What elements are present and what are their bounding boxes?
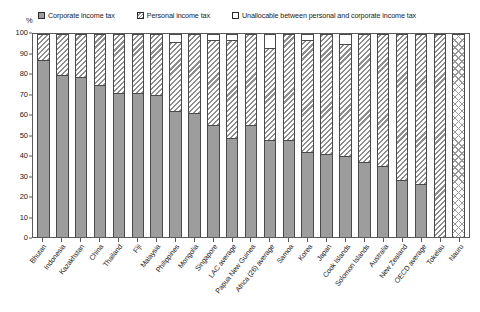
stacked-bar[interactable] xyxy=(94,34,106,237)
x-axis-label-slot: Korea xyxy=(298,242,317,312)
bars-container xyxy=(33,34,469,237)
bar-slot[interactable] xyxy=(110,34,129,237)
y-axis-tick-label: 10 xyxy=(20,214,28,222)
stacked-bar[interactable] xyxy=(264,34,276,237)
stacked-bar[interactable] xyxy=(113,34,125,237)
bar-segment-personal xyxy=(359,34,369,162)
stacked-bar[interactable] xyxy=(150,34,162,237)
bar-segment-personal xyxy=(189,34,199,113)
bar-slot[interactable] xyxy=(34,34,53,237)
legend-item-personal-income-tax: Personal income tax xyxy=(137,12,210,19)
bar-slot[interactable] xyxy=(336,34,355,237)
bar-segment-corporate xyxy=(189,113,199,237)
x-axis-label-slot: Philippines xyxy=(166,242,185,312)
bar-segment-personal xyxy=(321,34,331,154)
stacked-bar[interactable] xyxy=(339,34,351,237)
y-axis-tick-label: 0 xyxy=(24,234,28,242)
bar-segment-personal xyxy=(435,34,445,237)
bar-segment-corporate xyxy=(246,125,256,237)
stacked-bar[interactable] xyxy=(132,34,144,237)
bar-segment-personal xyxy=(133,34,143,93)
x-axis-category-label: Fiji xyxy=(132,243,143,254)
stacked-bar[interactable] xyxy=(245,34,257,237)
x-axis-label-slot: Thailand xyxy=(109,242,128,312)
y-axis-tick-label: 20 xyxy=(20,193,28,201)
stacked-bar[interactable] xyxy=(75,34,87,237)
unallocable-swatch-icon xyxy=(232,12,239,19)
bar-segment-unallocable xyxy=(340,34,350,44)
bar-segment-corporate xyxy=(340,156,350,237)
stacked-bar[interactable] xyxy=(452,34,464,237)
bar-segment-corporate xyxy=(151,95,161,237)
bar-segment-personal xyxy=(208,40,218,125)
bar-segment-corporate xyxy=(114,93,124,237)
stacked-bar[interactable] xyxy=(396,34,408,237)
bar-segment-personal xyxy=(416,34,426,184)
x-axis-label-slot: Malaysia xyxy=(147,242,166,312)
bar-segment-corporate xyxy=(359,162,369,237)
y-axis-tick-label: 100 xyxy=(15,29,28,37)
bar-segment-personal xyxy=(378,34,388,166)
x-axis-label-slot: Bhutan xyxy=(33,242,52,312)
legend-item-unallocable: Unallocable between personal and corpora… xyxy=(232,12,416,19)
stacked-bar-chart: Corporate income tax Personal income tax… xyxy=(0,0,480,312)
stacked-bar[interactable] xyxy=(56,34,68,237)
stacked-bar[interactable] xyxy=(301,34,313,237)
bar-slot[interactable] xyxy=(204,34,223,237)
x-axis-label-slot: Samoa xyxy=(279,242,298,312)
bar-slot[interactable] xyxy=(430,34,449,237)
bar-segment-personal xyxy=(170,42,180,111)
bar-slot[interactable] xyxy=(166,34,185,237)
stacked-bar[interactable] xyxy=(207,34,219,237)
stacked-bar[interactable] xyxy=(37,34,49,237)
bar-slot[interactable] xyxy=(393,34,412,237)
stacked-bar[interactable] xyxy=(358,34,370,237)
bar-slot[interactable] xyxy=(147,34,166,237)
legend-item-corporate-income-tax: Corporate income tax xyxy=(38,12,115,19)
bar-slot[interactable] xyxy=(412,34,431,237)
bar-segment-personal xyxy=(57,34,67,75)
bar-slot[interactable] xyxy=(317,34,336,237)
bar-segment-corporate xyxy=(208,125,218,237)
bar-segment-personal xyxy=(114,34,124,93)
stacked-bar[interactable] xyxy=(320,34,332,237)
bar-segment-corporate xyxy=(95,85,105,237)
bar-slot[interactable] xyxy=(374,34,393,237)
stacked-bar[interactable] xyxy=(434,34,446,237)
stacked-bar[interactable] xyxy=(377,34,389,237)
y-axis-tick-label: 50 xyxy=(20,132,28,140)
y-axis-unit-label: % xyxy=(26,17,33,25)
x-axis-label-slot: Kazakhstan xyxy=(71,242,90,312)
legend-label-unallocable: Unallocable between personal and corpora… xyxy=(242,12,416,19)
bar-segment-unallocable xyxy=(265,34,275,48)
bar-segment-corporate xyxy=(284,140,294,237)
stacked-bar[interactable] xyxy=(283,34,295,237)
x-axis-labels: BhutanIndonesiaKazakhstanChinaThailandFi… xyxy=(32,242,470,312)
bar-slot[interactable] xyxy=(261,34,280,237)
bar-slot[interactable] xyxy=(242,34,261,237)
bar-slot[interactable] xyxy=(185,34,204,237)
bar-segment-corporate xyxy=(321,154,331,237)
bar-slot[interactable] xyxy=(449,34,468,237)
bar-segment-corporate xyxy=(397,180,407,237)
y-axis-tick-label: 60 xyxy=(20,111,28,119)
bar-segment-personal xyxy=(340,44,350,156)
bar-slot[interactable] xyxy=(91,34,110,237)
bar-slot[interactable] xyxy=(128,34,147,237)
y-axis-tick-label: 30 xyxy=(20,173,28,181)
bar-segment-personal xyxy=(76,34,86,77)
y-axis-tick-label: 40 xyxy=(20,152,28,160)
bar-slot[interactable] xyxy=(279,34,298,237)
stacked-bar[interactable] xyxy=(226,34,238,237)
x-axis-label-slot: Africa (26) average xyxy=(260,242,279,312)
stacked-bar[interactable] xyxy=(415,34,427,237)
x-axis-label-slot: Solomon Islands xyxy=(355,242,374,312)
bar-slot[interactable] xyxy=(223,34,242,237)
bar-slot[interactable] xyxy=(298,34,317,237)
bar-slot[interactable] xyxy=(355,34,374,237)
bar-segment-corporate xyxy=(378,166,388,237)
stacked-bar[interactable] xyxy=(188,34,200,237)
stacked-bar[interactable] xyxy=(169,34,181,237)
bar-slot[interactable] xyxy=(53,34,72,237)
bar-slot[interactable] xyxy=(72,34,91,237)
